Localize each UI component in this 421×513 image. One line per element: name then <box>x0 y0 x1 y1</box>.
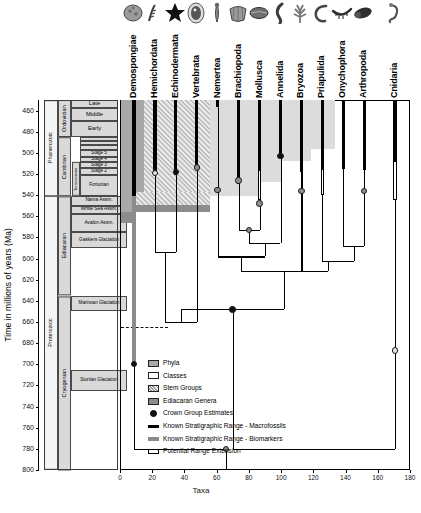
x-tick-mark <box>410 470 411 473</box>
worm-icon <box>206 2 228 24</box>
y-tick-label: 780 <box>12 445 34 452</box>
range-macrofossil-Echinodermata <box>174 100 177 175</box>
x-axis-label: Taxa <box>181 486 221 495</box>
y-tick-label: 520 <box>12 170 34 177</box>
br-demospongiae <box>134 364 135 449</box>
br-ecdysozoa <box>328 261 329 272</box>
taxon-label-nemertea: Nemertea <box>212 26 222 98</box>
y-tick-mark <box>36 470 39 471</box>
br-priapulida <box>322 195 323 261</box>
legend-item-biomarker-bar: Known Stratigraphic Range - Biomarkers <box>148 433 286 446</box>
br-annelida <box>281 158 282 243</box>
br-echinodermata <box>176 175 177 252</box>
legend-label: Classes <box>163 373 186 380</box>
x-tick-mark <box>249 470 250 473</box>
range-macrofossil-Bryozoa <box>300 100 303 172</box>
legend-item-macrofossil-bar: Known Stratigraphic Range - Macrofossils <box>148 420 286 433</box>
range-extension-Priapulida <box>321 169 324 195</box>
y-tick-label: 740 <box>12 403 34 410</box>
range-macrofossil-Brachiopoda <box>237 100 240 184</box>
taxon-label-cnidaria: Cnidaria <box>389 26 399 98</box>
x-tick-mark <box>346 470 347 473</box>
crown-group-node <box>150 410 157 417</box>
phyla-swatch <box>148 360 159 367</box>
crown-node-Arthropoda <box>361 188 367 194</box>
y-axis-line <box>38 100 39 470</box>
br-onychophora <box>343 169 344 246</box>
y-tick-label: 800 <box>12 466 34 473</box>
classes-swatch <box>148 372 159 379</box>
br-vertebrata <box>197 170 198 322</box>
br-panarthropoda <box>354 246 355 261</box>
br-ambulacraria <box>165 252 166 322</box>
bryozoan-icon <box>289 2 311 24</box>
crown-node-Bryozoa <box>298 188 304 194</box>
starfish-icon <box>164 2 186 24</box>
crown-node-Cnidaria <box>392 347 398 353</box>
br-hemichordata <box>155 175 156 252</box>
taxon-label-annelida: Annelida <box>275 26 285 98</box>
legend-label: Known Stratigraphic Range - Biomarkers <box>163 436 282 443</box>
x-tick-mark <box>281 470 282 473</box>
x-tick-label: 120 <box>303 474 323 481</box>
macrofossil-bar <box>148 425 159 428</box>
taxon-label-demospongiae: Demospongiae <box>128 26 138 98</box>
crown-node-Mollusca <box>256 200 262 206</box>
taxon-label-brachiopoda: Brachiopoda <box>233 26 243 98</box>
ediacaran-genera-field <box>136 205 210 212</box>
graptolite-icon <box>143 2 165 24</box>
join-deuterostomia <box>165 322 196 323</box>
legend-label: Ediacaran Genera <box>163 398 217 405</box>
range-macrofossil-Cnidaria <box>393 100 396 161</box>
y-tick-label: 480 <box>12 128 34 135</box>
legend-label: Crown Group Estimates <box>163 410 233 417</box>
trilobite-icon <box>352 2 374 24</box>
y-tick-label: 680 <box>12 339 34 346</box>
join-protostomia-b <box>301 271 327 272</box>
y-tick-label: 700 <box>12 360 34 367</box>
taxon-label-hemichordata: Hemichordata <box>149 26 159 98</box>
legend: PhylaClassesStem GroupsEdiacaran GeneraC… <box>148 357 286 458</box>
legend-item-ediacaran-genera-swatch: Ediacaran Genera <box>148 395 286 408</box>
priapulid-icon <box>310 2 332 24</box>
range-biomarker-Demospongiae <box>132 196 135 364</box>
stem-group-field-2 <box>136 192 210 205</box>
legend-label: Potential Range Extension <box>163 448 241 455</box>
node-brachiopoda-mollusca <box>246 227 252 233</box>
crown-node-Nemertea <box>214 187 220 193</box>
x-tick-label: 20 <box>142 474 162 481</box>
join-protostomia-a <box>241 271 301 272</box>
cnidarian-icon <box>383 2 405 24</box>
br-arthropoda <box>364 170 365 246</box>
y-tick-label: 640 <box>12 297 34 304</box>
br-nemertea <box>218 107 219 256</box>
taxon-label-onychophora: Onychophora <box>337 26 347 98</box>
x-tick-label: 100 <box>271 474 291 481</box>
node-protostomia-deuterostomia <box>229 306 235 312</box>
taxon-label-echinodermata: Echinodermata <box>170 26 180 98</box>
range-macrofossil-Onychophora <box>342 100 345 169</box>
y-tick-label: 600 <box>12 255 34 262</box>
annelid-icon <box>269 2 291 24</box>
y-tick-label: 580 <box>12 233 34 240</box>
sponge-icon <box>122 2 144 24</box>
x-tick-label: 180 <box>400 474 420 481</box>
taxon-label-priapulida: Priapulida <box>316 26 326 98</box>
legend-item-classes-swatch: Classes <box>148 370 286 383</box>
legend-item-stem-groups-swatch: Stem Groups <box>148 382 286 395</box>
range-macrofossil-Nemertea <box>216 100 219 107</box>
y-tick-label: 500 <box>12 149 34 156</box>
x-tick-label: 80 <box>239 474 259 481</box>
crown-node-Hemichordata <box>152 170 158 176</box>
br-deuterostomia <box>181 309 182 322</box>
br-bryozoa <box>301 172 302 271</box>
br-brachiopoda <box>239 184 240 231</box>
crown-node-Vertebrata <box>194 164 200 170</box>
x-tick-label: 0 <box>110 474 130 481</box>
strat-column-frame <box>44 100 118 470</box>
x-tick-mark <box>378 470 379 473</box>
legend-label: Known Stratigraphic Range - Macrofossils <box>163 423 286 430</box>
y-tick-label: 720 <box>12 381 34 388</box>
crown-node-Echinodermata <box>173 169 179 175</box>
range-macrofossil-Vertebrata <box>195 100 198 170</box>
